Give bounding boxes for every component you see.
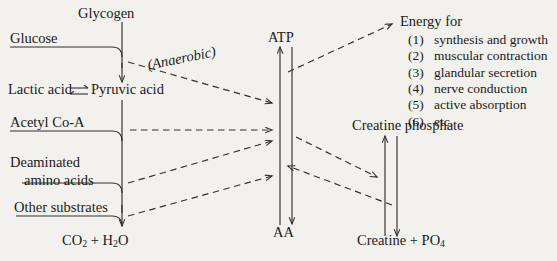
edge-other-join bbox=[16, 216, 122, 226]
label-atp: ATP bbox=[268, 30, 294, 45]
label-acetyl-coa: Acetyl Co-A bbox=[10, 115, 85, 130]
energy-item-number: (2) bbox=[408, 48, 434, 64]
label-deaminated-amino-acids: Deaminated amino acids bbox=[10, 154, 94, 189]
energy-item-label: synthesis and growth bbox=[434, 32, 548, 48]
arrow-atp-to-energy bbox=[288, 24, 392, 72]
label-creatine-prefix: Creatine bbox=[357, 232, 406, 248]
label-deaminated-line2: amino acids bbox=[10, 172, 94, 190]
energy-item-label: active absorption bbox=[434, 97, 527, 113]
energy-list-item: (6)etc. bbox=[408, 114, 548, 130]
energy-list-item: (5)active absorption bbox=[408, 97, 548, 113]
energy-list-item: (4)nerve conduction bbox=[408, 81, 548, 97]
label-creatine-plus: + bbox=[410, 232, 418, 248]
energy-list-item: (1)synthesis and growth bbox=[408, 32, 548, 48]
label-po4-subscript: 4 bbox=[440, 238, 445, 249]
arrow-creatine-phosphate-to-atp bbox=[288, 166, 392, 205]
edge-acetyl-join bbox=[10, 131, 122, 141]
energy-list-item: (2)muscular contraction bbox=[408, 48, 548, 64]
label-h2o-prefix: H bbox=[103, 232, 113, 248]
energy-item-label: nerve conduction bbox=[434, 81, 527, 97]
energy-item-label: muscular contraction bbox=[434, 48, 548, 64]
label-aa: AA bbox=[273, 225, 294, 240]
label-other-substrates: Other substrates bbox=[14, 200, 108, 215]
label-co2-h2o: CO2 + H2O bbox=[62, 233, 128, 250]
metabolism-diagram: Glycogen Glucose Lactic acid Pyruvic aci… bbox=[0, 0, 557, 261]
reversible-arrow-lactic-pyruvic bbox=[70, 85, 88, 94]
energy-item-number: (1) bbox=[408, 32, 434, 48]
energy-item-label: etc. bbox=[434, 114, 453, 130]
label-co2-subscript: 2 bbox=[82, 238, 87, 249]
label-pyruvic-acid: Pyruvic acid bbox=[91, 82, 164, 97]
energy-uses-list: (1)synthesis and growth(2)muscular contr… bbox=[408, 32, 548, 130]
energy-item-number: (3) bbox=[408, 65, 434, 81]
energy-item-number: (6) bbox=[408, 114, 434, 130]
energy-list-item: (3)glandular secretion bbox=[408, 65, 548, 81]
label-glucose: Glucose bbox=[10, 31, 58, 46]
edge-glucose-join bbox=[10, 47, 122, 57]
label-po4-prefix: PO bbox=[422, 232, 441, 248]
energy-item-number: (5) bbox=[408, 97, 434, 113]
label-h2o-suffix: O bbox=[118, 232, 128, 248]
label-glycogen: Glycogen bbox=[78, 6, 134, 21]
energy-item-label: glandular secretion bbox=[434, 65, 537, 81]
arrow-other-to-atp bbox=[128, 176, 272, 216]
label-deaminated-line1: Deaminated bbox=[10, 154, 80, 170]
label-plus-sign: + bbox=[91, 232, 99, 248]
label-co2-prefix: CO bbox=[62, 232, 82, 248]
label-lactic-acid: Lactic acid bbox=[8, 82, 72, 97]
arrow-atp-to-creatine-phosphate bbox=[296, 137, 377, 177]
arrow-deaminated-to-atp bbox=[128, 141, 272, 183]
label-energy-for: Energy for bbox=[400, 14, 462, 29]
label-creatine-po4: Creatine + PO4 bbox=[357, 233, 445, 250]
energy-item-number: (4) bbox=[408, 81, 434, 97]
